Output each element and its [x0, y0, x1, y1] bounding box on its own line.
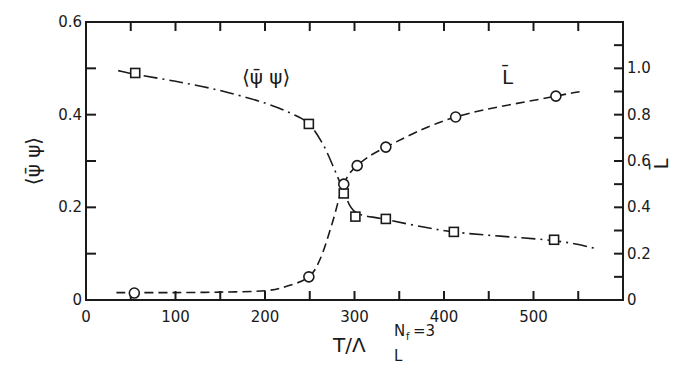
chart: 010020030040050000.20.40.600.20.40.60.81… — [0, 0, 699, 379]
y-right-tick-label: 0.6 — [627, 152, 651, 170]
y-left-tick-label: 0 — [72, 291, 82, 309]
data-point-square — [339, 189, 348, 198]
y-left-tick-label: 0.4 — [58, 106, 82, 124]
x-tick-label: 0 — [81, 308, 91, 326]
data-point-circle — [551, 91, 561, 101]
y-right-tick-label: 0.8 — [627, 106, 651, 124]
data-point-circle — [451, 112, 461, 122]
y-right-tick-label: 1.0 — [627, 59, 651, 77]
x-tick-label: 300 — [340, 308, 369, 326]
y-right-tick-label: 0.4 — [627, 198, 651, 216]
y-left-tick-label: 0.2 — [58, 198, 82, 216]
data-point-square — [550, 235, 559, 244]
series-label-polyakov: L̄ — [502, 64, 514, 89]
series-markers — [129, 68, 561, 298]
data-point-circle — [352, 161, 362, 171]
data-point-square — [381, 214, 390, 223]
data-point-circle — [129, 288, 139, 298]
data-point-circle — [339, 179, 349, 189]
data-point-square — [449, 227, 458, 236]
data-point-square — [351, 212, 360, 221]
data-point-square — [131, 68, 140, 77]
y-axis-left-title: ⟨ψ̄ ψ⟩ — [21, 137, 45, 185]
x-axis-title: T/Λ L N f =3 — [332, 322, 435, 365]
y-left-tick-label: 0.6 — [58, 13, 82, 31]
series-label-psi: ⟨ψ̄ ψ⟩ — [242, 65, 290, 89]
x-axis-title-sup-sub: f — [406, 331, 410, 342]
x-axis-title-sup-rest: =3 — [413, 322, 435, 340]
data-point-circle — [304, 272, 314, 282]
x-axis-title-sub: L — [394, 347, 403, 365]
x-tick-label: 100 — [161, 308, 190, 326]
y-right-tick-label: 0 — [627, 291, 637, 309]
data-point-square — [304, 119, 313, 128]
x-axis-title-sup: N — [394, 322, 405, 340]
y-right-tick-label: 0.2 — [627, 245, 651, 263]
data-point-circle — [381, 142, 391, 152]
x-tick-label: 200 — [251, 308, 280, 326]
x-axis-title-main: T/Λ — [332, 333, 366, 357]
x-tick-label: 500 — [519, 308, 548, 326]
series-curves — [116, 71, 596, 293]
y-axis-right-title: L̄ — [648, 158, 673, 170]
